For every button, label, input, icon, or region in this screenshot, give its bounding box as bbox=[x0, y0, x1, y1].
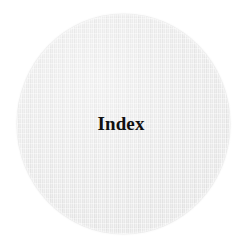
section-title: Index bbox=[93, 114, 149, 133]
page-root: Index bbox=[0, 0, 245, 250]
